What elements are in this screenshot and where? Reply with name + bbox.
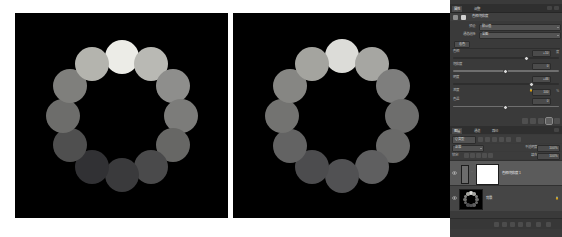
color-icon[interactable] <box>538 118 544 124</box>
filter-smart-icon[interactable] <box>506 137 511 142</box>
filter-shape-icon[interactable] <box>499 137 504 142</box>
slider-lightness-value[interactable]: +46 <box>532 76 552 83</box>
new-adjustment-icon[interactable] <box>518 222 523 227</box>
slider-density-label: 浓度 <box>453 89 459 92</box>
channel-value: 全图 <box>482 33 488 36</box>
layer-locked-icon: 🔒 <box>555 197 559 200</box>
panel-collapse-icon[interactable] <box>554 6 559 10</box>
editor-panel-column: 属性 调整 色相/饱和度 预设: 默认值 通道选择: 全图 <box>450 0 562 237</box>
layer-thumbnail-ring <box>460 190 482 209</box>
slider-density: 浓度 🔒 100 % <box>450 89 562 98</box>
table-row[interactable]: 背景 🔒 <box>450 185 562 211</box>
colour-disc <box>105 158 139 192</box>
slider-temperature-label: 色温 <box>453 98 459 101</box>
lock-fill-row: 锁定: 填充: 100% <box>450 152 562 159</box>
histogram-icon[interactable] <box>522 118 528 124</box>
colour-disc <box>273 129 307 163</box>
preset-row: 预设: 默认值 <box>450 23 562 30</box>
layer-filter-row: Q 类型 <box>450 135 562 143</box>
slider-hue: 色相 +10 度 <box>450 50 562 61</box>
list-item: 色相/饱和度 1 <box>502 172 521 175</box>
lock-transparency-icon[interactable] <box>464 153 469 158</box>
slider-lightness-track[interactable] <box>453 83 559 85</box>
slider-hue-unit: 度 <box>556 51 559 54</box>
slider-saturation-thumb[interactable] <box>503 69 508 74</box>
filter-type-icon[interactable] <box>492 137 497 142</box>
colour-disc <box>466 192 470 196</box>
slider-saturation-value[interactable]: 0 <box>532 63 552 70</box>
slider-temperature-thumb[interactable] <box>503 105 508 110</box>
slider-hue-label: 色相 <box>453 50 459 53</box>
tab-properties[interactable]: 属性 <box>452 6 462 12</box>
eye-icon[interactable] <box>452 196 457 200</box>
slider-lightness-label: 明度 <box>453 76 459 79</box>
properties-tab-strip: 属性 调整 <box>450 4 562 13</box>
tab-paths[interactable]: 路径 <box>490 128 500 134</box>
layers-panel-menu-icon[interactable] <box>554 128 559 132</box>
colorize-row: 着色 <box>450 40 562 47</box>
after-image-canvas[interactable] <box>233 13 450 218</box>
list-item: 背景 <box>486 197 492 200</box>
chevron-down-icon <box>557 27 559 28</box>
tab-layers[interactable]: 图层 <box>452 128 462 134</box>
layers-tab-strip: 图层 通道 路径 <box>450 126 562 134</box>
colour-disc <box>105 40 139 74</box>
add-mask-icon[interactable] <box>510 222 515 227</box>
colorize-button[interactable]: 着色 <box>454 41 470 48</box>
before-image-canvas[interactable] <box>15 13 228 218</box>
hue-saturation-icon <box>453 15 458 20</box>
panel-icon-dock <box>450 116 562 125</box>
lock-brush-icon[interactable] <box>470 153 475 158</box>
disc-ring-after <box>233 13 450 218</box>
slider-saturation-label: 饱和度 <box>453 63 462 66</box>
new-layer-icon[interactable] <box>536 222 541 227</box>
tab-channels[interactable]: 通道 <box>472 128 482 134</box>
slider-hue-track[interactable] <box>453 57 559 59</box>
chevron-down-icon <box>557 35 559 36</box>
layer-filter-select[interactable]: Q 类型 <box>452 136 476 144</box>
tab-adjustments[interactable]: 调整 <box>472 6 482 12</box>
colour-disc <box>46 99 80 133</box>
styles-icon[interactable] <box>554 118 560 124</box>
adjustment-icon-thumb[interactable] <box>461 165 469 184</box>
lock-artboard-icon[interactable] <box>482 153 487 158</box>
panel-menu-icon[interactable] <box>547 6 552 10</box>
filter-pixel-icon[interactable] <box>478 137 483 142</box>
fill-value[interactable]: 100% <box>537 153 561 160</box>
lock-position-icon[interactable] <box>476 153 481 158</box>
slider-lightness-thumb[interactable] <box>529 82 534 87</box>
blend-opacity-row: 正常 不透明度: 100% <box>450 144 562 151</box>
link-layers-icon[interactable] <box>494 222 499 227</box>
filter-toggle-icon[interactable] <box>516 137 521 142</box>
table-row[interactable]: ◌ 色相/饱和度 1 <box>450 160 562 186</box>
colour-disc <box>134 150 168 184</box>
filter-adjustment-icon[interactable] <box>485 137 490 142</box>
layer-style-icon[interactable] <box>502 222 507 227</box>
slider-temperature: 色温 0 <box>450 98 562 110</box>
slider-hue-value[interactable]: +10 <box>532 50 552 57</box>
colour-disc <box>156 69 190 103</box>
layer-mask-thumbnail[interactable] <box>476 164 499 185</box>
channel-select[interactable]: 全图 <box>479 32 561 40</box>
new-group-icon[interactable] <box>526 222 531 227</box>
lock-all-icon[interactable] <box>488 153 493 158</box>
layer-filter-label: Q 类型 <box>455 138 464 141</box>
colour-disc <box>469 204 473 208</box>
slider-density-value[interactable]: 100 <box>532 89 552 96</box>
swatches-icon[interactable] <box>546 118 552 124</box>
chevron-down-icon <box>480 148 482 149</box>
opacity-value[interactable]: 100% <box>537 145 561 152</box>
delete-layer-icon[interactable] <box>546 222 551 227</box>
slider-density-unit: % <box>556 90 559 93</box>
eye-icon[interactable] <box>452 171 457 175</box>
slider-temperature-value[interactable]: 0 <box>532 98 552 105</box>
layer-thumbnail[interactable] <box>459 189 483 210</box>
mask-link-icon[interactable]: ◌ <box>471 171 473 175</box>
info-icon[interactable] <box>530 118 536 124</box>
layer-mask-icon[interactable] <box>461 15 466 20</box>
preset-select[interactable]: 默认值 <box>479 24 561 32</box>
channel-label: 通道选择: <box>450 33 476 36</box>
colour-disc <box>376 69 410 103</box>
colour-disc <box>466 203 470 207</box>
slider-hue-thumb[interactable] <box>524 56 529 61</box>
